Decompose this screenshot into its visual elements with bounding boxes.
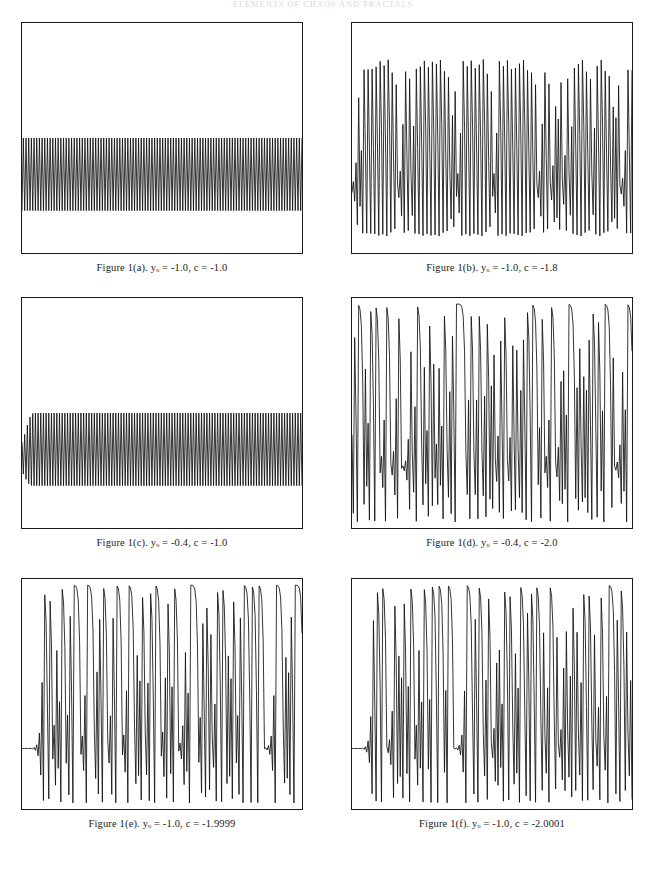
figure-panel-e: Figure 1(e). yₒ = -1.0, c = -1.9999 xyxy=(21,578,303,838)
plot-frame-a xyxy=(21,22,303,254)
plot-canvas-f xyxy=(352,579,632,809)
figure-panel-a: Figure 1(a). yₒ = -1.0, c = -1.0 xyxy=(21,22,303,282)
plot-frame-f xyxy=(351,578,633,810)
plot-canvas-a xyxy=(22,23,302,253)
plot-canvas-d xyxy=(352,298,632,528)
plot-frame-d xyxy=(351,297,633,529)
plot-frame-e xyxy=(21,578,303,810)
trace-line-b xyxy=(352,60,632,237)
caption-e: Figure 1(e). yₒ = -1.0, c = -1.9999 xyxy=(21,818,303,829)
plot-canvas-c xyxy=(22,298,302,528)
plot-canvas-b xyxy=(352,23,632,253)
trace-line-d xyxy=(352,304,632,522)
plot-frame-c xyxy=(21,297,303,529)
caption-b: Figure 1(b). yₒ = -1.0, c = -1.8 xyxy=(351,262,633,273)
trace-line-c xyxy=(22,413,302,486)
figure-panel-c: Figure 1(c). yₒ = -0.4, c = -1.0 xyxy=(21,297,303,557)
caption-a: Figure 1(a). yₒ = -1.0, c = -1.0 xyxy=(21,262,303,273)
figure-grid: Figure 1(a). yₒ = -1.0, c = -1.0 Figure … xyxy=(0,0,646,871)
trace-line-e xyxy=(22,585,302,803)
figure-panel-d: Figure 1(d). yₒ = -0.4, c = -2.0 xyxy=(351,297,633,557)
figure-panel-b: Figure 1(b). yₒ = -1.0, c = -1.8 xyxy=(351,22,633,282)
figure-panel-f: Figure 1(f). yₒ = -1.0, c = -2.0001 xyxy=(351,578,633,838)
trace-line-f xyxy=(352,585,632,803)
trace-line-a xyxy=(22,138,302,211)
caption-f: Figure 1(f). yₒ = -1.0, c = -2.0001 xyxy=(351,818,633,829)
caption-d: Figure 1(d). yₒ = -0.4, c = -2.0 xyxy=(351,537,633,548)
caption-c: Figure 1(c). yₒ = -0.4, c = -1.0 xyxy=(21,537,303,548)
plot-canvas-e xyxy=(22,579,302,809)
plot-frame-b xyxy=(351,22,633,254)
